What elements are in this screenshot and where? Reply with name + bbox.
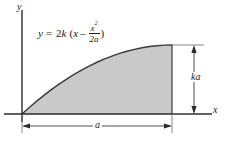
dim-arrow-right: [164, 123, 172, 128]
dim-arrow-bottom: [191, 106, 196, 114]
equation-close-paren: ): [101, 28, 105, 39]
y-axis-label: y: [17, 2, 21, 12]
dim-arrow-left: [22, 123, 30, 128]
fraction-numerator: x2: [89, 22, 98, 34]
fraction-numerator-exponent: 2: [94, 19, 97, 26]
dimension-label-ka: ka: [189, 72, 202, 82]
fraction-denominator: 2a: [89, 34, 100, 44]
dimension-label-a: a: [93, 120, 102, 130]
equation-lhs: y: [38, 28, 43, 39]
x-axis-label: x: [213, 105, 217, 115]
equation-minus-sign: –: [80, 28, 86, 39]
equation-fraction: x2 2a: [89, 22, 100, 44]
equation-x-term: x: [73, 28, 78, 39]
area-fill: [22, 45, 172, 114]
equation-equals-sign: =: [46, 28, 52, 39]
equation-annotation: y = 2 k ( x – x2 2a ): [38, 22, 104, 44]
equation-constant-k: k: [62, 28, 67, 39]
dim-arrow-top: [191, 45, 196, 53]
math-figure: y x a ka y = 2 k ( x – x2 2a ): [0, 0, 228, 159]
